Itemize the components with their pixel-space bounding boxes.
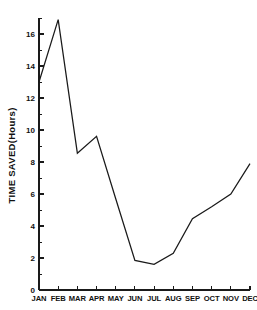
x-tick-label: OCT (204, 294, 220, 303)
y-tick-label: 16 (26, 30, 35, 39)
y-tick-label: 6 (31, 190, 36, 199)
x-tick-label: JUL (147, 294, 162, 303)
x-tick-label: NOV (223, 294, 240, 303)
plot-area: 0246810121416 JANFEBMARAPRMAYJUNJULAUGSE… (0, 0, 257, 310)
y-tick-label: 10 (26, 126, 35, 135)
y-tick-label: 12 (26, 94, 35, 103)
line-chart: TIME SAVED(Hours) 0246810121416 JANFEBMA… (0, 0, 257, 310)
y-tick-label-group: 0246810121416 (26, 30, 35, 295)
x-tick-label: DEC (242, 294, 257, 303)
x-tick-label: JUN (127, 294, 142, 303)
y-tick-label: 2 (31, 254, 36, 263)
x-tick-label: FEB (51, 294, 67, 303)
x-tick-label: AUG (165, 294, 182, 303)
x-tick-label-group: JANFEBMARAPRMAYJUNJULAUGSEPOCTNOVDEC (32, 294, 257, 303)
x-tick-group (39, 286, 250, 290)
x-tick-label: JAN (32, 294, 47, 303)
data-series-line (39, 20, 250, 265)
x-tick-label: SEP (185, 294, 200, 303)
x-tick-label: APR (89, 294, 105, 303)
y-tick-label: 4 (31, 222, 36, 231)
x-tick-label: MAR (69, 294, 87, 303)
y-tick-label: 14 (26, 62, 35, 71)
y-tick-label: 8 (31, 158, 36, 167)
x-tick-label: MAY (108, 294, 124, 303)
